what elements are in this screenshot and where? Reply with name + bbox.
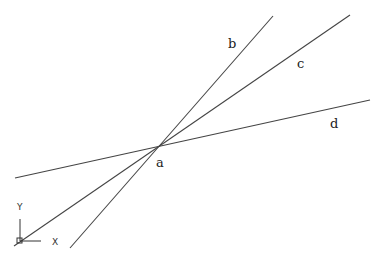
ucs-icon: Y X — [16, 202, 58, 247]
drawing: b c d a Y X — [0, 0, 381, 264]
label-a-intersection: a — [156, 155, 164, 170]
label-b: b — [228, 36, 236, 51]
line-c[interactable] — [14, 15, 350, 246]
label-c: c — [297, 56, 304, 71]
cad-drawing-canvas[interactable]: b c d a Y X — [0, 0, 381, 264]
line-b[interactable] — [70, 16, 273, 248]
line-d[interactable] — [15, 100, 370, 178]
label-d: d — [330, 116, 338, 131]
ucs-y-label: Y — [16, 202, 23, 212]
ucs-x-label: X — [52, 237, 58, 247]
